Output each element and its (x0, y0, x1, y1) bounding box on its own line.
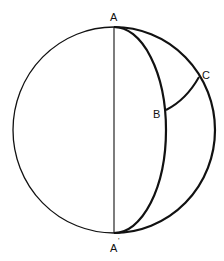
sphere-diagram: A B C A ' (0, 0, 224, 261)
label-B: B (153, 108, 160, 120)
great-circle-arc-ABA (114, 27, 166, 233)
label-C: C (202, 69, 210, 81)
label-A-prime: A (110, 242, 118, 254)
great-circle-arc-ACA (114, 27, 215, 233)
sphere-outline-left (13, 27, 114, 233)
label-A-prime-mark: ' (118, 236, 120, 245)
arc-BC (166, 77, 199, 110)
label-A: A (110, 11, 118, 23)
